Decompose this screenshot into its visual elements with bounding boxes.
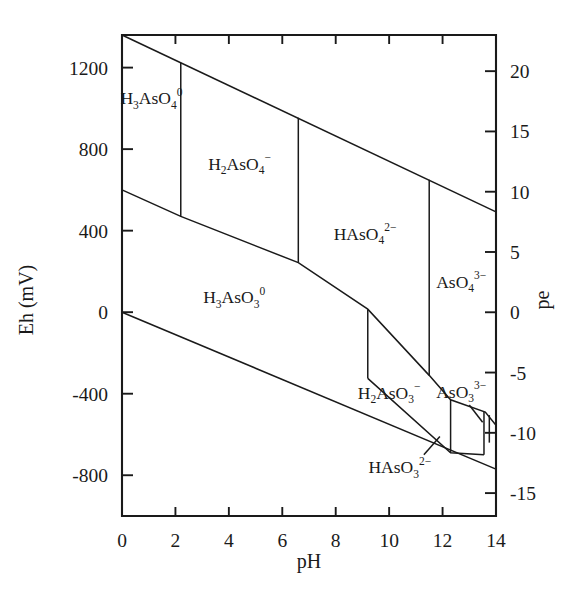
chart-canvas: 02468101214 12008004000-400-800 20151050…: [0, 0, 571, 600]
leader-lines: [424, 405, 483, 455]
x-tick-label: 0: [117, 530, 127, 551]
x-tick-label: 4: [224, 530, 234, 551]
species-label-H3AsO4-0: H3AsO40: [120, 86, 182, 111]
x-tick-label: 2: [171, 530, 181, 551]
x-axis-title: pH: [297, 550, 321, 573]
species-label-HAsO4-2minus: HAsO42−: [334, 221, 397, 246]
y-right-tick-label: 15: [510, 121, 530, 142]
species-label-AsO4-3minus: AsO43−: [436, 269, 486, 294]
y-axis-left-tick-labels: 12008004000-400-800: [69, 58, 108, 487]
x-tick-label: 12: [433, 530, 453, 551]
y-left-tick-label: -400: [72, 384, 108, 405]
y-axis-left-ticks: [122, 68, 133, 476]
y-right-tick-label: -10: [510, 423, 536, 444]
species-label-H3AsO3-0: H3AsO30: [203, 285, 265, 310]
y-right-tick-label: -5: [510, 363, 526, 384]
y-axis-left-title: Eh (mV): [15, 265, 38, 336]
species-label-AsO3-3minus: AsO33−: [436, 379, 486, 404]
x-tick-label: 6: [277, 530, 287, 551]
species-field-labels: H3AsO40H2AsO4−HAsO42−AsO43−H3AsO30H2AsO3…: [120, 86, 486, 480]
y-right-tick-label: 20: [510, 61, 530, 82]
y-right-tick-label: 5: [510, 242, 520, 263]
y-axis-right-tick-labels: 20151050-5-10-15: [510, 61, 536, 504]
x-tick-label: 8: [331, 530, 341, 551]
y-right-tick-label: -15: [510, 483, 536, 504]
AsO3-leader-line: [469, 405, 482, 422]
y-left-tick-label: -800: [72, 465, 108, 486]
x-axis-tick-labels: 02468101214: [117, 530, 506, 551]
eh-ph-diagram-figure: 02468101214 12008004000-400-800 20151050…: [0, 0, 571, 600]
phase-boundary-lines: [122, 35, 496, 469]
y-left-tick-label: 400: [79, 221, 108, 242]
species-label-HAsO3-2minus: HAsO32−: [368, 455, 431, 480]
y-axis-right-title: pe: [531, 290, 554, 309]
y-left-tick-label: 800: [79, 139, 108, 160]
y-axis-right-ticks: [485, 71, 496, 493]
y-right-tick-label: 0: [510, 302, 520, 323]
y-left-tick-label: 1200: [69, 58, 108, 79]
y-right-tick-label: 10: [510, 182, 530, 203]
y-left-tick-label: 0: [98, 302, 108, 323]
x-tick-label: 10: [379, 530, 399, 551]
species-label-H2AsO4-minus: H2AsO4−: [208, 151, 271, 176]
x-tick-label: 14: [486, 530, 506, 551]
boundary-water-upper-stability-limit: [122, 35, 496, 212]
species-label-H2AsO3-minus: H2AsO3−: [358, 380, 421, 405]
